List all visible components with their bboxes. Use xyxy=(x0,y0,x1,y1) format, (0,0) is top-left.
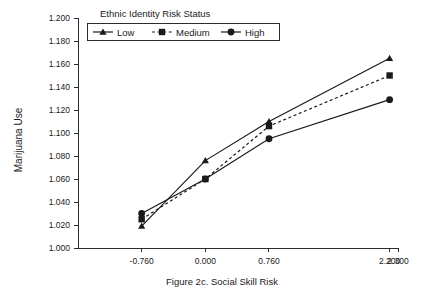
y-tick-label: 1.080 xyxy=(49,151,71,161)
series-line-low xyxy=(142,58,390,226)
y-tick-label: 1.160 xyxy=(49,59,71,69)
datapoint-medium-square-icon xyxy=(386,72,392,78)
y-tick-label: 1.000 xyxy=(49,243,71,253)
datapoint-low-triangle-icon xyxy=(386,55,393,61)
series-line-high xyxy=(142,100,390,214)
y-axis-title-label: Marijuana Use xyxy=(13,107,24,172)
x-tick-label: -0.760 xyxy=(130,256,154,266)
y-tick-label: 1.120 xyxy=(49,105,71,115)
legend-label-high: High xyxy=(245,27,265,38)
x-tick-label: 2.300 xyxy=(387,256,409,266)
y-tick-label: 1.200 xyxy=(49,13,71,23)
datapoint-high-circle-icon xyxy=(138,210,145,217)
x-tick-label: 0.000 xyxy=(195,256,217,266)
y-tick-label: 1.040 xyxy=(49,197,71,207)
series-line-medium xyxy=(142,76,390,220)
legend-marker-medium-square-icon xyxy=(159,29,165,35)
legend-marker-high-circle-icon xyxy=(228,29,235,36)
figure-container: Marijuana Use 1.0001.0201.0401.0601.0801… xyxy=(0,0,427,300)
y-axis-ticks: 1.0001.0201.0401.0601.0801.1001.1201.140… xyxy=(49,13,78,253)
y-tick-label: 1.140 xyxy=(49,82,71,92)
y-tick-label: 1.100 xyxy=(49,128,71,138)
datapoint-high-circle-icon xyxy=(202,176,209,183)
legend-label-medium: Medium xyxy=(176,27,210,38)
x-axis-ticks: -0.7600.0000.7602.2002.300 xyxy=(130,248,409,266)
y-tick-label: 1.180 xyxy=(49,36,71,46)
legend-label-low: Low xyxy=(117,27,135,38)
legend-title: Ethnic Identity Risk Status xyxy=(100,8,211,19)
data-series-group xyxy=(138,55,393,229)
figure-caption: Figure 2c. Social Skill Risk xyxy=(166,276,278,287)
y-tick-label: 1.020 xyxy=(49,220,71,230)
chart-canvas: Marijuana Use 1.0001.0201.0401.0601.0801… xyxy=(0,0,427,300)
y-axis-title: Marijuana Use xyxy=(13,107,24,172)
datapoint-high-circle-icon xyxy=(266,135,273,142)
legend: Ethnic Identity Risk Status LowMediumHig… xyxy=(87,8,279,40)
datapoint-medium-square-icon xyxy=(138,216,144,222)
datapoint-high-circle-icon xyxy=(386,96,393,103)
datapoint-low-triangle-icon xyxy=(202,157,209,163)
datapoint-medium-square-icon xyxy=(266,123,272,129)
x-tick-label: 0.760 xyxy=(258,256,280,266)
y-tick-label: 1.060 xyxy=(49,174,71,184)
